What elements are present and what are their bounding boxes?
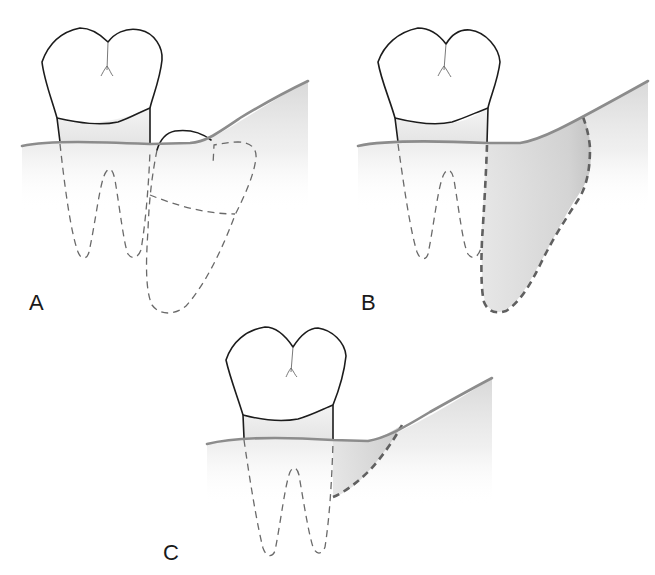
panel-label-a: A xyxy=(29,292,44,314)
fissure-b xyxy=(438,44,451,77)
panel-b xyxy=(358,28,648,312)
cervical-shade-a xyxy=(57,108,150,144)
panel-label-b: B xyxy=(361,292,376,314)
fissure-c xyxy=(286,347,297,377)
panel-c xyxy=(207,327,492,556)
dental-diagram xyxy=(0,0,655,575)
bone-area-a xyxy=(22,80,308,210)
panel-a xyxy=(22,28,308,313)
defect-area-b xyxy=(482,117,591,312)
fissure-a xyxy=(101,42,113,76)
panel-label-c: C xyxy=(163,542,179,564)
